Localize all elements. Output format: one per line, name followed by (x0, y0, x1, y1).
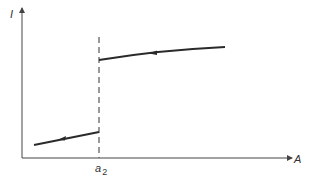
upper-branch-curve (99, 47, 225, 60)
hysteresis-diagram: I A a2 (0, 0, 320, 181)
lower-branch-curve (34, 132, 99, 145)
x-axis-label: A (293, 153, 301, 165)
a2-label: a2 (95, 162, 107, 177)
y-axis-label: I (10, 8, 13, 20)
lower-branch-arrow-icon (58, 136, 66, 141)
